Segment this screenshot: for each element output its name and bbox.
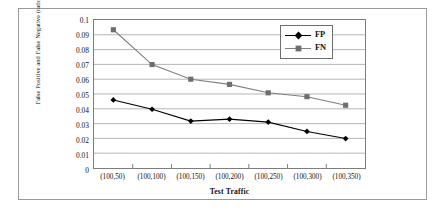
data-point-fp xyxy=(188,118,194,124)
y-axis-tick-label: 0.1 xyxy=(49,16,89,25)
y-axis-title: False Positive and False Negative (ratio… xyxy=(34,0,41,117)
legend-label-fn: FN xyxy=(315,44,326,52)
y-axis-tick-label: 0.02 xyxy=(49,136,89,145)
x-axis-tick-label: (100,200) xyxy=(215,173,243,181)
y-axis-tick-label: 0.07 xyxy=(49,61,89,70)
x-axis-tick-labels: (100,50)(100,100)(100,150)(100,200)(100,… xyxy=(93,173,366,187)
data-point-fp xyxy=(227,116,233,122)
y-axis-tick-label: 0 xyxy=(49,166,89,175)
data-point-fp xyxy=(304,129,310,135)
x-axis-tick-label: (100,250) xyxy=(254,173,282,181)
data-point-fp xyxy=(149,106,155,112)
data-point-fn xyxy=(343,103,348,108)
data-point-fn xyxy=(149,62,154,67)
y-axis-tick-label: 0.01 xyxy=(49,151,89,160)
data-point-fp xyxy=(110,97,116,103)
data-point-fn xyxy=(188,77,193,82)
legend-marker-square-icon xyxy=(285,43,311,54)
data-point-fn xyxy=(266,90,271,95)
y-axis-tick-label: 0.05 xyxy=(49,91,89,100)
data-point-fn xyxy=(304,94,309,99)
data-point-fp xyxy=(343,136,349,142)
y-axis-tick-label: 0.09 xyxy=(49,31,89,40)
y-axis-tick-labels: 0.10.090.080.070.060.050.040.030.020.010 xyxy=(49,13,89,165)
x-axis-tick-label: (100,300) xyxy=(293,173,321,181)
x-axis-tick-label: (100,350) xyxy=(332,173,360,181)
legend-item-fp: FP xyxy=(285,29,326,42)
x-axis-title: Test Traffic xyxy=(93,187,366,196)
x-axis-tick-label: (100,50) xyxy=(100,173,125,181)
y-axis-tick-label: 0.06 xyxy=(49,76,89,85)
chart-legend: FP FN xyxy=(280,25,333,59)
plot-area: FP FN xyxy=(93,19,366,169)
x-axis-tick-label: (100,150) xyxy=(176,173,204,181)
y-axis-tick-label: 0.03 xyxy=(49,121,89,130)
chart-figure: False Positive and False Negative (ratio… xyxy=(18,8,427,200)
legend-marker-diamond-icon xyxy=(285,30,311,41)
x-axis-tick-label: (100,100) xyxy=(137,173,165,181)
y-axis-tick-label: 0.08 xyxy=(49,46,89,55)
data-point-fp xyxy=(265,119,271,125)
legend-item-fn: FN xyxy=(285,42,326,55)
data-point-fn xyxy=(111,27,116,32)
legend-label-fp: FP xyxy=(315,31,325,39)
data-point-fn xyxy=(227,82,232,87)
y-axis-tick-label: 0.04 xyxy=(49,106,89,115)
